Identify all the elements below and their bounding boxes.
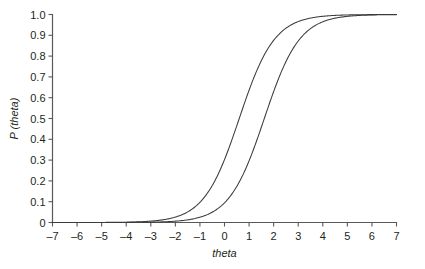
x-tick-label: 1: [246, 230, 252, 242]
x-tick-label: –7: [46, 230, 58, 242]
y-axis-ticks: 00.10.20.30.40.50.60.70.80.91.0: [30, 9, 52, 229]
curve-right: [53, 15, 397, 223]
x-tick-label: 7: [393, 230, 399, 242]
curve-left: [53, 15, 397, 223]
x-axis-ticks: –7–6–5–4–3–2–101234567: [46, 223, 399, 242]
x-tick-label: 2: [271, 230, 277, 242]
x-tick-label: –6: [71, 230, 83, 242]
x-tick-label: –2: [169, 230, 181, 242]
y-axis-title: P (theta): [8, 97, 20, 139]
x-axis-title: theta: [212, 247, 236, 259]
y-tick-label: 0.2: [30, 175, 45, 187]
y-tick-label: 0.8: [30, 50, 45, 62]
y-tick-label: 0: [39, 217, 45, 229]
y-tick-label: 0.1: [30, 196, 45, 208]
data-curves: [53, 15, 397, 223]
y-tick-label: 0.7: [30, 71, 45, 83]
axes-group: [53, 15, 397, 223]
x-tick-label: 4: [320, 230, 326, 242]
y-tick-label: 0.9: [30, 29, 45, 41]
x-tick-label: 6: [369, 230, 375, 242]
x-tick-label: 5: [344, 230, 350, 242]
y-tick-label: 0.4: [30, 133, 45, 145]
x-tick-label: –1: [194, 230, 206, 242]
x-tick-label: –3: [145, 230, 157, 242]
x-tick-label: –4: [120, 230, 132, 242]
y-tick-label: 0.5: [30, 113, 45, 125]
chart-figure: 00.10.20.30.40.50.60.70.80.91.0 –7–6–5–4…: [0, 0, 425, 269]
x-tick-label: –5: [96, 230, 108, 242]
x-tick-label: 3: [295, 230, 301, 242]
item-characteristic-curve-plot: 00.10.20.30.40.50.60.70.80.91.0 –7–6–5–4…: [0, 0, 425, 269]
y-tick-label: 0.6: [30, 92, 45, 104]
y-tick-label: 0.3: [30, 154, 45, 166]
y-tick-label: 1.0: [30, 9, 45, 21]
x-tick-label: 0: [221, 230, 227, 242]
